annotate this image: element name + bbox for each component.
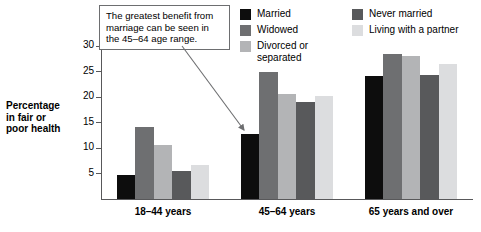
bar <box>402 56 421 199</box>
bar <box>420 75 439 199</box>
legend-swatch-icon <box>240 25 251 36</box>
bar <box>135 127 154 199</box>
legend-swatch-icon <box>352 25 363 36</box>
y-tick-label: 20 <box>54 90 94 101</box>
bar <box>278 94 297 199</box>
y-tick-mark <box>96 148 101 149</box>
bar <box>172 171 191 199</box>
legend-swatch-icon <box>240 41 251 52</box>
y-tick-mark <box>96 97 101 98</box>
bar <box>191 165 210 199</box>
y-tick-label: 25 <box>54 65 94 76</box>
bar <box>117 175 136 199</box>
y-tick-label: 10 <box>54 141 94 152</box>
legend-swatch-icon <box>240 9 251 20</box>
legend-label: Divorced or separated <box>257 40 308 63</box>
bar <box>154 145 173 199</box>
chart-legend: MarriedWidowedDivorced or separated Neve… <box>240 8 476 60</box>
y-tick-mark <box>96 122 101 123</box>
bar <box>315 96 334 199</box>
legend-label: Widowed <box>257 24 298 36</box>
x-axis-group-label: 65 years and over <box>349 206 473 217</box>
bar <box>365 76 384 199</box>
x-axis-group-label: 18–44 years <box>101 206 225 217</box>
y-tick-mark <box>96 71 101 72</box>
legend-item[interactable]: Divorced or separated <box>240 40 308 54</box>
callout-annotation: The greatest benefit from marriage can b… <box>99 5 230 50</box>
x-axis-group-label: 45–64 years <box>225 206 349 217</box>
legend-label: Never married <box>369 8 432 20</box>
legend-label: Living with a partner <box>369 24 459 36</box>
legend-column-right: Never marriedLiving with a partner <box>352 8 459 40</box>
y-tick-label: 15 <box>54 116 94 127</box>
legend-item[interactable]: Never married <box>352 8 459 22</box>
chart-figure: Percentage in fair or poor health 510152… <box>0 0 481 232</box>
y-tick-label: 5 <box>54 167 94 178</box>
legend-label: Married <box>257 8 291 20</box>
bar <box>296 102 315 199</box>
y-tick-label: 30 <box>54 39 94 50</box>
bar <box>241 134 260 199</box>
legend-swatch-icon <box>352 9 363 20</box>
bar <box>383 54 402 199</box>
legend-item[interactable]: Married <box>240 8 308 22</box>
x-axis-line <box>101 199 473 200</box>
bar <box>259 72 278 200</box>
plot-area: 51015202530 <box>101 46 473 199</box>
bar <box>439 64 458 199</box>
legend-item[interactable]: Living with a partner <box>352 24 459 38</box>
y-axis-title-line-1: Percentage <box>6 100 82 112</box>
legend-column-left: MarriedWidowedDivorced or separated <box>240 8 308 56</box>
y-tick-mark <box>96 173 101 174</box>
callout-text: The greatest benefit from marriage can b… <box>106 10 213 44</box>
legend-item[interactable]: Widowed <box>240 24 308 38</box>
